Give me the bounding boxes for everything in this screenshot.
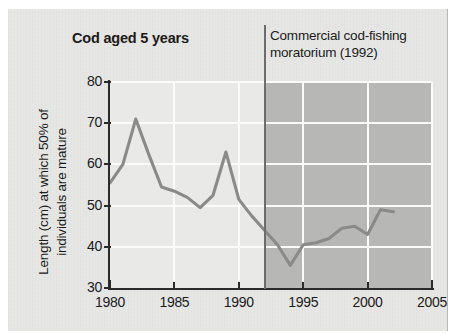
y-tick-label-80: 80 [62, 73, 102, 89]
y-tick-80 [104, 81, 111, 83]
series-polyline [110, 119, 393, 265]
moratorium-annotation-line-2: moratorium (1992) [270, 44, 448, 61]
series-line-chart [110, 82, 432, 288]
x-tick-label-2005: 2005 [402, 294, 456, 310]
y-axis-line [108, 80, 110, 290]
x-axis-line [108, 288, 434, 290]
x-tick-2005 [431, 280, 433, 289]
x-tick-label-1995: 1995 [273, 294, 333, 310]
y-tick-label-70: 70 [62, 114, 102, 130]
plot-area [110, 82, 432, 288]
y-tick-70 [104, 122, 111, 124]
y-tick-50 [104, 205, 111, 207]
moratorium-annotation-line-1: Commercial cod-fishing [270, 27, 448, 44]
x-tick-1980 [109, 280, 111, 289]
y-axis-tick-labels: 304050607080 [58, 0, 102, 334]
x-tick-label-1990: 1990 [209, 294, 269, 310]
y-tick-label-30: 30 [62, 279, 102, 295]
figure-root: Cod aged 5 years Commercial cod-fishing … [0, 0, 456, 334]
x-tick-1990 [238, 282, 240, 289]
x-tick-2000 [367, 282, 369, 289]
y-tick-label-50: 50 [62, 197, 102, 213]
moratorium-vertical-line [264, 25, 266, 289]
moratorium-annotation: Commercial cod-fishing moratorium (1992) [270, 27, 448, 61]
y-tick-60 [104, 163, 111, 165]
y-tick-label-40: 40 [62, 238, 102, 254]
y-tick-40 [104, 246, 111, 248]
x-tick-label-1980: 1980 [80, 294, 140, 310]
x-tick-1995 [302, 282, 304, 289]
y-tick-label-60: 60 [62, 155, 102, 171]
y-axis-title-line-1: Length (cm) at which 50% of [35, 67, 53, 317]
x-tick-label-2000: 2000 [338, 294, 398, 310]
x-tick-label-1985: 1985 [144, 294, 204, 310]
x-tick-1985 [173, 282, 175, 289]
